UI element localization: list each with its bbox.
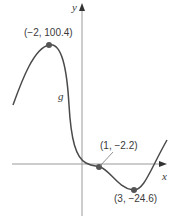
x-axis-arrow-icon [159,161,167,167]
graph: y x (−2, 100.4) (1, −2.2) (3, −24.6) g [0,0,177,218]
y-axis-label: y [71,1,77,13]
max-point-marker [46,42,52,48]
inflection-point-label: (1, −2.2) [100,140,138,151]
max-point-label: (−2, 100.4) [24,27,73,38]
curve-label: g [58,90,64,102]
min-point-label: (3, −24.6) [114,193,157,204]
curve-g [13,45,167,190]
y-axis-arrow-icon [79,3,85,11]
x-axis-label: x [161,170,167,182]
